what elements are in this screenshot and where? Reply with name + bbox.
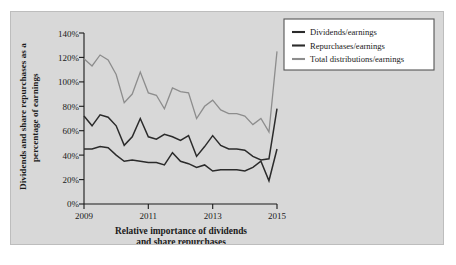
- x-tick-label: 2009: [75, 211, 94, 221]
- y-tick-label: 0%: [67, 199, 80, 209]
- axis-lines: [84, 33, 277, 204]
- x-tick-label: 2011: [139, 211, 157, 221]
- y-tick-label: 60%: [63, 126, 80, 136]
- data-series-group: [84, 51, 277, 180]
- y-tick-label: 140%: [58, 29, 80, 39]
- x-axis-title-line2: and share repurchases: [136, 237, 226, 244]
- x-tick-label: 2013: [204, 211, 223, 221]
- x-tick-labels: 2009 2011 2013 2015: [75, 211, 287, 221]
- y-tick-labels: 140% 120% 100% 80% 60% 40% 20% 0%: [58, 29, 80, 210]
- figure-panel: Dividends and share repurchases as a per…: [10, 11, 444, 245]
- series-line-dividends: [84, 147, 277, 181]
- y-axis-title: Dividends and share repurchases as a per…: [18, 43, 40, 190]
- legend: Dividends/earnings Repurchases/earnings …: [284, 19, 434, 70]
- x-axis-title-line1: Relative importance of dividends: [115, 226, 247, 236]
- y-axis-ticks: [79, 33, 84, 204]
- legend-label: Total distributions/earnings: [310, 54, 405, 64]
- legend-label: Dividends/earnings: [310, 27, 377, 37]
- y-tick-label: 80%: [63, 102, 80, 112]
- y-tick-label: 40%: [63, 151, 80, 161]
- series-line-total-distributions: [84, 51, 277, 132]
- x-axis-title: Relative importance of dividends and sha…: [115, 226, 247, 244]
- y-axis-title-line2: percentage of earnings: [30, 73, 40, 162]
- legend-label: Repurchases/earnings: [310, 41, 386, 51]
- x-axis-ticks: [84, 204, 277, 209]
- y-tick-label: 20%: [63, 175, 80, 185]
- chart-svg: Dividends and share repurchases as a per…: [11, 12, 443, 244]
- y-tick-label: 120%: [58, 53, 80, 63]
- x-tick-label: 2015: [268, 211, 287, 221]
- y-tick-label: 100%: [58, 77, 80, 87]
- y-axis-title-line1: Dividends and share repurchases as a: [18, 43, 28, 190]
